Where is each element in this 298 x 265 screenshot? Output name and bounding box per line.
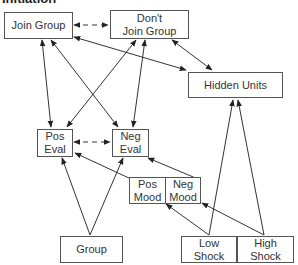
edge-lowshock-posmood [166,204,209,235]
edge-group-poseval [62,158,90,235]
edge-highshock-negmood [202,203,264,235]
edge-lowshock-hidden [209,100,233,235]
edge-dontjoin-negeval [133,40,145,127]
node-label-line1: Low [199,237,219,250]
node-label-line2: Shock [194,250,225,263]
node-label-line2: Join Group [123,25,177,38]
node-label-line1: Don't [137,12,162,25]
edge-join-negeval [51,40,118,127]
node-low-shock: Low Shock [181,236,237,263]
node-label-line1: High [254,237,277,250]
node-group: Group [60,236,123,263]
node-pos-eval: Pos Eval [37,129,73,157]
edge-group-negeval [90,158,123,235]
node-hidden-units: Hidden Units [188,72,283,98]
node-label: Group [76,243,107,256]
node-label-line2: Mood [134,191,162,204]
node-pos-mood: Pos Mood [129,177,166,204]
edge-highshock-hidden [238,100,264,235]
node-neg-mood: Neg Mood [165,177,201,204]
edge-join-hidden [74,37,186,70]
edge-dontjoin-poseval [67,40,136,127]
node-label-line1: Pos [138,178,157,191]
node-label-line1: Neg [173,178,193,191]
edge-negmood-negeval [148,158,198,179]
node-label: Join Group [12,19,66,32]
node-label-line2: Mood [169,191,197,204]
node-label-line2: Eval [44,143,65,156]
node-dont-join-group: Don't Join Group [110,10,189,39]
node-high-shock: High Shock [237,236,294,263]
edge-join-poseval [42,40,51,127]
node-join-group: Join Group [4,12,73,39]
node-neg-eval: Neg Eval [112,129,149,157]
node-label-line2: Shock [250,250,281,263]
node-label-line1: Neg [120,130,140,143]
edge-dontjoin-hidden [172,40,212,70]
node-label: Hidden Units [204,79,267,92]
node-label-line2: Eval [120,143,141,156]
node-label-line1: Pos [46,130,65,143]
